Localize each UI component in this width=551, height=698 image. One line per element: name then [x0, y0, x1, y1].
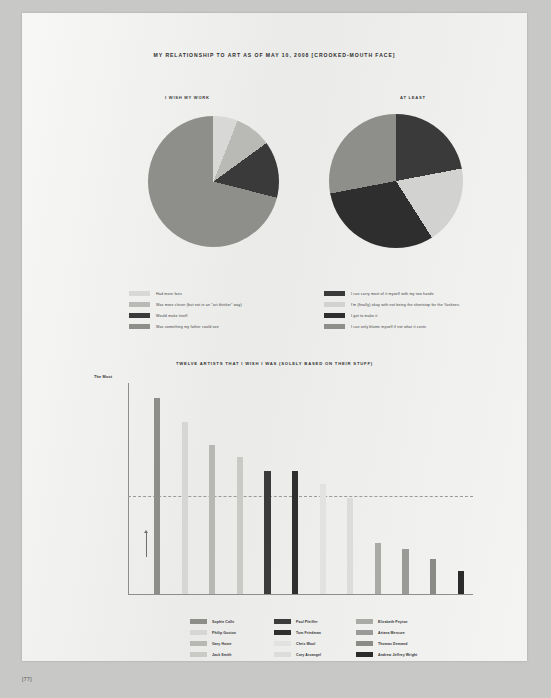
legend-row: I'm (finally) okay with not being the sh… — [324, 299, 460, 310]
bar — [375, 543, 381, 594]
bar-legend-swatch — [274, 652, 291, 656]
bar — [237, 457, 243, 594]
pie-right-label: AT LEAST — [400, 95, 426, 100]
bar-legend-row: Cory Arcangel — [274, 649, 356, 660]
bar-legend-label: Paul Pfeiffer — [296, 620, 318, 624]
bar-legend-label: Sophie Calle — [212, 620, 234, 624]
bar — [347, 498, 353, 594]
bar — [264, 471, 270, 595]
bar-legend-swatch — [356, 641, 373, 645]
bar-legend-row: Sophie Calle — [190, 616, 272, 627]
bar-chart-title: TWELVE ARTISTS THAT I WISH I WAS (SOLELY… — [22, 361, 527, 366]
bar — [154, 398, 160, 594]
pie-chart-right — [329, 114, 463, 248]
legend-row: I can carry most of it myself with my tw… — [324, 288, 460, 299]
legend-row: I can only blame myself if not what it c… — [324, 321, 460, 332]
bar-legend-swatch — [190, 619, 207, 623]
legend-swatch — [324, 291, 345, 296]
legend-swatch — [324, 313, 345, 318]
bar — [430, 559, 436, 594]
bar — [320, 484, 326, 594]
bar-legend-row: Paul Pfeiffer — [274, 616, 356, 627]
pie-left-legend: Had more fansWas more clever (but not in… — [129, 288, 242, 332]
bar-legend-row: Thomas Demand — [356, 638, 438, 649]
pie-left-label: I WISH MY WORK — [165, 95, 210, 100]
bar-legend-row: Ariana Mercure — [356, 627, 438, 638]
bar-legend-column: Sophie CallePhilip GustonGary HumeJack S… — [190, 616, 272, 660]
legend-row: I got to make it — [324, 310, 460, 321]
bar-legend-label: Ariana Mercure — [378, 631, 405, 635]
legend-swatch — [129, 302, 150, 307]
legend-row: Had more fans — [129, 288, 242, 299]
bar-legend-label: Philip Guston — [212, 631, 236, 635]
bar-legend-swatch — [356, 630, 373, 634]
bar-legend-label: Cory Arcangel — [296, 653, 321, 657]
least-direction-arrow-icon — [146, 531, 147, 557]
bar-legend-swatch — [274, 641, 291, 645]
legend-row: Was something my father could see — [129, 321, 242, 332]
bar — [402, 549, 408, 594]
bar-legend-row: Gary Hume — [190, 638, 272, 649]
legend-label: Was something my father could see — [156, 325, 219, 329]
bar-legend-row: Andrew Jeffrey Wright — [356, 649, 438, 660]
bar-legend-swatch — [356, 652, 373, 656]
bar-legend-row: Jack Smith — [190, 649, 272, 660]
bar-legend-column: Paul PfeifferTom FriedmanChris WoolCory … — [274, 616, 356, 660]
page-title: MY RELATIONSHIP TO ART AS OF MAY 10, 200… — [22, 52, 527, 58]
legend-label: I'm (finally) okay with not being the sh… — [351, 303, 460, 307]
page-number: [77] — [22, 676, 32, 682]
legend-label: I can only blame myself if not what it c… — [351, 325, 426, 329]
reference-line — [128, 496, 473, 497]
printed-sheet: MY RELATIONSHIP TO ART AS OF MAY 10, 200… — [22, 13, 527, 661]
bar-legend-swatch — [190, 641, 207, 645]
bar-chart: The Most — [92, 375, 502, 610]
pie-right-legend: I can carry most of it myself with my tw… — [324, 288, 460, 332]
bar-legend-label: Elizabeth Peyton — [378, 620, 408, 624]
page-canvas: MY RELATIONSHIP TO ART AS OF MAY 10, 200… — [0, 0, 551, 698]
bar-legend-row: Tom Friedman — [274, 627, 356, 638]
bar-legend-swatch — [190, 630, 207, 634]
bar-legend-label: Jack Smith — [212, 653, 231, 657]
bar-plot-area — [128, 383, 473, 595]
legend-swatch — [129, 313, 150, 318]
bar-legend-swatch — [274, 630, 291, 634]
bar — [458, 571, 464, 595]
bar-legend-label: Tom Friedman — [296, 631, 321, 635]
bar — [292, 471, 298, 595]
y-axis-line — [128, 383, 129, 595]
bar-legend-row: Elizabeth Peyton — [356, 616, 438, 627]
legend-swatch — [324, 324, 345, 329]
bar-legend-swatch — [274, 619, 291, 623]
bar-legend-label: Andrew Jeffrey Wright — [378, 653, 417, 657]
legend-label: Was more clever (but not in an "art-thin… — [156, 303, 242, 307]
x-axis-line — [128, 594, 473, 595]
legend-swatch — [129, 291, 150, 296]
axis-top-label: The Most — [94, 375, 112, 379]
pie-chart-left — [148, 116, 279, 247]
bar-legend-swatch — [190, 652, 207, 656]
legend-label: Would make itself — [156, 314, 187, 318]
legend-label: I can carry most of it myself with my tw… — [351, 292, 434, 296]
bar-legend-swatch — [356, 619, 373, 623]
legend-label: Had more fans — [156, 292, 182, 296]
bar-legend-row: Chris Wool — [274, 638, 356, 649]
bar-legend-label: Chris Wool — [296, 642, 315, 646]
legend-swatch — [324, 302, 345, 307]
bar — [209, 445, 215, 594]
bar — [182, 422, 188, 595]
legend-row: Would make itself — [129, 310, 242, 321]
bar-legend-label: Gary Hume — [212, 642, 232, 646]
bar-legend-row: Philip Guston — [190, 627, 272, 638]
bar-legend-label: Thomas Demand — [378, 642, 408, 646]
bar-legend-column: Elizabeth PeytonAriana MercureThomas Dem… — [356, 616, 438, 660]
legend-swatch — [129, 324, 150, 329]
legend-label: I got to make it — [351, 314, 377, 318]
legend-row: Was more clever (but not in an "art-thin… — [129, 299, 242, 310]
